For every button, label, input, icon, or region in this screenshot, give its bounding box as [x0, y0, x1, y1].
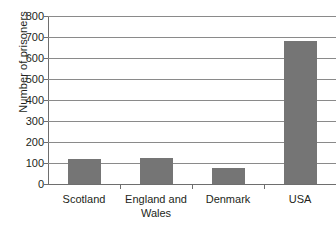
x-category-label-line: England and	[120, 192, 192, 206]
y-tick-label: 800	[0, 11, 44, 22]
x-axis-category-labels: ScotlandEngland andWalesDenmarkUSA	[48, 192, 336, 228]
y-tick-label: 700	[0, 32, 44, 43]
x-category-label: USA	[264, 192, 336, 206]
y-tick-label: 100	[0, 158, 44, 169]
bar	[212, 168, 245, 184]
x-category-label: Scotland	[48, 192, 120, 206]
x-category-label: England andWales	[120, 192, 192, 220]
y-tick-label: 400	[0, 95, 44, 106]
bar	[140, 158, 173, 184]
plot-area	[48, 16, 336, 184]
gridline	[48, 37, 336, 38]
y-tick-label: 200	[0, 137, 44, 148]
x-category-label: Denmark	[192, 192, 264, 206]
x-category-label-line: USA	[264, 192, 336, 206]
bar	[284, 41, 317, 184]
y-tick-label: 600	[0, 53, 44, 64]
x-tick-mark	[120, 184, 121, 189]
y-tick-label: 0	[0, 179, 44, 190]
x-category-label-line: Wales	[120, 206, 192, 220]
y-tick-label: 300	[0, 116, 44, 127]
x-category-label-line: Denmark	[192, 192, 264, 206]
gridline	[48, 16, 336, 17]
y-tick-label: 500	[0, 74, 44, 85]
x-tick-mark	[192, 184, 193, 189]
x-tick-mark	[264, 184, 265, 189]
x-category-label-line: Scotland	[48, 192, 120, 206]
bar-chart: Number of prisoners 01002003004005006007…	[0, 0, 336, 230]
y-axis-tick-labels: 0100200300400500600700800	[0, 16, 44, 184]
bar	[68, 159, 101, 184]
